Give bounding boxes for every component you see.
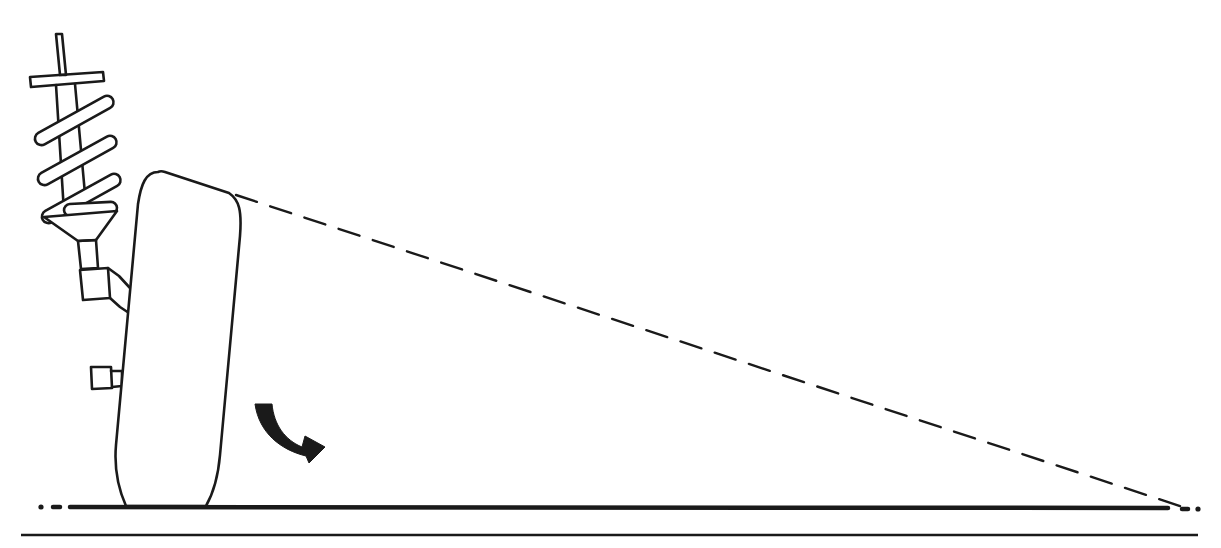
camber-diagram xyxy=(0,0,1221,548)
tilted-tire xyxy=(115,171,240,506)
knuckle-arm-lower xyxy=(110,298,129,313)
knuckle-arm-upper xyxy=(108,268,130,288)
strut-neck xyxy=(78,240,98,269)
spring-seat-cone xyxy=(44,211,117,241)
strut-tube-left xyxy=(56,85,64,212)
hub-block xyxy=(91,367,112,389)
camber-diagram-svg xyxy=(0,0,1221,548)
ground-dot-right xyxy=(1195,506,1200,511)
top-spring-seat xyxy=(30,72,104,87)
ground-line xyxy=(38,504,1200,511)
ground-dot-left-1 xyxy=(38,504,43,509)
ground-main xyxy=(70,507,1168,508)
strut-assembly xyxy=(30,34,130,389)
piston-rod xyxy=(56,34,66,75)
strut-tube-right xyxy=(75,84,86,205)
steering-knuckle-block xyxy=(80,268,110,300)
dashed-projection-line xyxy=(236,195,1186,508)
rotation-arrow-icon xyxy=(255,404,325,463)
